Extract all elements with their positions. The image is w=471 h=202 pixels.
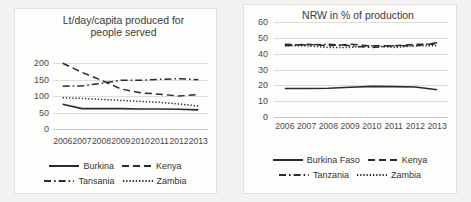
x-axis-nrw: 20062007200820092010201120122013 [274, 121, 448, 131]
x-axis-tick-label: 2012 [169, 136, 188, 146]
x-axis-line [53, 129, 208, 130]
chart-panel-nrw: NRW in % of production 0102030405060 200… [243, 4, 457, 194]
legend-key-icon [49, 162, 79, 170]
y-axis-tick-label: 10 [244, 96, 268, 106]
legend-item-tansania[interactable]: Tansania [44, 176, 114, 186]
series-line-burkina-faso [285, 86, 437, 89]
y-axis-tick-label: 0 [244, 112, 268, 122]
chart-panel-production: Lt/day/capita produced for people served… [14, 8, 217, 194]
legend-row: Burkina FasoKenya [273, 155, 428, 165]
legend-label: Zambia [157, 176, 187, 186]
legend-key-icon [368, 156, 398, 164]
series-line-tansania [63, 79, 199, 87]
legend-production: BurkinaKenyaTansaniaZambia [15, 161, 216, 186]
legend-key-icon [44, 177, 74, 185]
chart-page: Lt/day/capita produced for people served… [0, 0, 471, 202]
x-axis-tick-label: 2010 [131, 136, 150, 146]
y-axis-tick-label: 20 [244, 80, 268, 90]
x-axis-tick-label: 2009 [339, 121, 361, 131]
x-axis-tick-label: 2008 [318, 121, 340, 131]
legend-item-zambia[interactable]: Zambia [123, 176, 187, 186]
y-axis-tick-label: 150 [17, 75, 49, 85]
legend-item-kenya[interactable]: Kenya [122, 161, 182, 171]
y-axis-tick-label: 30 [244, 65, 268, 75]
legend-row: TanzaniaZambia [279, 170, 421, 180]
y-axis-tick-label: 50 [17, 108, 49, 118]
legend-row: TansaniaZambia [44, 176, 186, 186]
legend-label: Burkina Faso [307, 155, 360, 165]
legend-key-icon [273, 156, 303, 164]
chart-title-production: Lt/day/capita produced for people served [15, 14, 216, 38]
x-axis-tick-label: 2013 [189, 136, 208, 146]
y-axis-tick-label: 200 [17, 58, 49, 68]
legend-label: Tanzania [313, 170, 349, 180]
legend-nrw: Burkina FasoKenyaTanzaniaZambia [244, 155, 456, 180]
x-axis-tick-label: 2007 [296, 121, 318, 131]
legend-label: Burkina [83, 161, 114, 171]
legend-item-tanzania[interactable]: Tanzania [279, 170, 349, 180]
x-axis-tick-label: 2011 [383, 121, 405, 131]
x-axis-tick-label: 2012 [405, 121, 427, 131]
legend-item-kenya[interactable]: Kenya [368, 155, 428, 165]
x-axis-tick-label: 2010 [361, 121, 383, 131]
x-axis-tick-label: 2011 [150, 136, 169, 146]
series-line-zambia [63, 98, 199, 106]
legend-label: Kenya [402, 155, 428, 165]
y-axis-tick-label: 0 [17, 124, 49, 134]
series-line-burkina [63, 104, 199, 110]
y-axis-tick-label: 40 [244, 49, 268, 59]
y-axis-tick-label: 50 [244, 33, 268, 43]
x-axis-tick-label: 2009 [111, 136, 130, 146]
legend-item-burkina[interactable]: Burkina [49, 161, 114, 171]
legend-label: Zambia [391, 170, 421, 180]
y-axis-tick-label: 100 [17, 91, 49, 101]
x-axis-tick-label: 2006 [274, 121, 296, 131]
legend-item-burkina-faso[interactable]: Burkina Faso [273, 155, 360, 165]
legend-key-icon [123, 177, 153, 185]
legend-key-icon [122, 162, 152, 170]
x-axis-tick-label: 2006 [53, 136, 72, 146]
series-line-kenya [63, 63, 199, 96]
x-axis-production: 20062007200820092010201120122013 [53, 136, 208, 146]
plot-area-nrw: 0102030405060 [274, 19, 448, 117]
legend-row: BurkinaKenya [49, 161, 181, 171]
plot-area-production: 050100150200 [53, 55, 208, 129]
legend-key-icon [357, 171, 387, 179]
x-axis-tick-label: 2007 [72, 136, 91, 146]
legend-label: Kenya [156, 161, 182, 171]
series-layer-nrw [274, 19, 448, 117]
legend-label: Tansania [78, 176, 114, 186]
x-axis-tick-label: 2013 [426, 121, 448, 131]
x-axis-tick-label: 2008 [92, 136, 111, 146]
series-layer-production [53, 55, 208, 129]
legend-item-zambia[interactable]: Zambia [357, 170, 421, 180]
y-axis-tick-label: 60 [244, 17, 268, 27]
x-axis-line [274, 117, 448, 118]
legend-key-icon [279, 171, 309, 179]
